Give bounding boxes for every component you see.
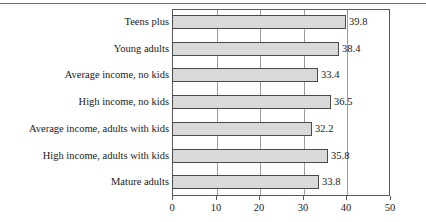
x-tick-label: 20	[254, 202, 265, 213]
category-label: High income, no kids	[2, 95, 172, 109]
x-tick-0	[172, 196, 173, 200]
category-label: Teens plus	[2, 15, 172, 29]
bar	[172, 42, 339, 56]
x-tick-20	[259, 196, 260, 200]
x-tick-30	[303, 196, 304, 200]
category-label: Average income, adults with kids	[2, 122, 172, 136]
x-tick-50	[390, 196, 391, 200]
x-axis: 01020304050	[172, 196, 390, 222]
bar-value-label: 33.4	[321, 68, 339, 82]
bar	[172, 149, 328, 163]
bar	[172, 95, 331, 109]
bar	[172, 68, 318, 82]
bar	[172, 15, 346, 29]
bar-value-label: 35.8	[331, 149, 349, 163]
x-tick-10	[216, 196, 217, 200]
x-tick-label: 0	[169, 202, 174, 213]
x-tick-40	[346, 196, 347, 200]
bar-value-label: 39.8	[349, 15, 367, 29]
category-label: Mature adults	[2, 175, 172, 189]
x-tick-label: 50	[385, 202, 396, 213]
bar	[172, 122, 312, 136]
bar-value-label: 38.4	[342, 42, 360, 56]
top-horizontal-rule	[0, 3, 426, 4]
category-label: Average income, no kids	[2, 68, 172, 82]
bar-value-label: 33.8	[322, 175, 340, 189]
category-label: Young adults	[2, 42, 172, 56]
bar-series	[172, 9, 390, 196]
bar-value-label: 32.2	[315, 122, 333, 136]
x-tick-label: 30	[298, 202, 309, 213]
category-axis-labels: Teens plusYoung adultsAverage income, no…	[0, 9, 172, 196]
x-tick-label: 10	[211, 202, 222, 213]
category-label: High income, adults with kids	[2, 149, 172, 163]
x-tick-label: 40	[341, 202, 352, 213]
bar	[172, 175, 319, 189]
bar-value-label: 36.5	[334, 95, 352, 109]
chart-figure: 39.838.433.436.532.235.833.8 Teens plusY…	[0, 0, 426, 222]
